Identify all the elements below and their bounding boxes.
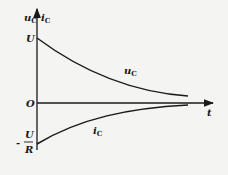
- tick-u: U: [26, 33, 36, 44]
- tick-minus-sign: -: [16, 137, 20, 148]
- rc-discharge-diagram: uC iC U O - U R uC iC t: [0, 0, 228, 175]
- tick-r-denominator: R: [24, 144, 33, 155]
- tick-u-numerator: U: [25, 129, 35, 140]
- y-label-current: iC: [41, 12, 51, 25]
- origin-label: O: [26, 98, 35, 109]
- ic-curve: [37, 105, 188, 144]
- t-axis-label: t: [207, 107, 212, 118]
- ic-curve-label: iC: [93, 125, 103, 138]
- uc-curve-label: uC: [124, 65, 137, 78]
- y-label-voltage: uC: [24, 12, 37, 25]
- uc-curve: [37, 38, 188, 96]
